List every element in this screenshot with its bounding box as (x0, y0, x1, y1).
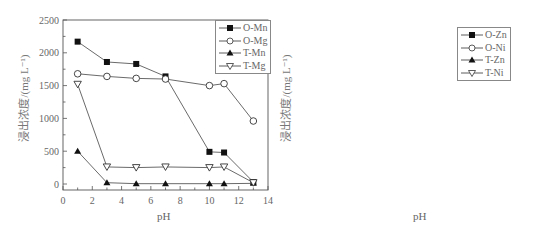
legend-right: O-Zn O-Ni T-Zn T-Ni (457, 27, 511, 81)
legend-item-t-mn: T-Mn (219, 47, 267, 60)
x-tick-label: 12 (234, 195, 244, 206)
marker-triangle-down (74, 81, 81, 88)
marker-square (104, 59, 110, 65)
y-tick-label: 1000 (39, 113, 59, 124)
y-tick-label: 500 (44, 146, 59, 157)
x-tick-label: 0 (61, 195, 66, 206)
marker-circle (206, 82, 213, 89)
y-tick-label: 2000 (39, 47, 59, 58)
x-tick-label: 4 (119, 195, 124, 206)
y-axis-label-left: 浸出浓度/(mg L⁻¹) (15, 43, 31, 153)
marker-triangle-up (162, 180, 169, 186)
x-axis-label-left: pH (157, 210, 170, 222)
marker-square (133, 61, 139, 67)
y-tick-label: 1500 (39, 80, 59, 91)
marker-circle (250, 118, 257, 125)
marker-triangle-up (221, 180, 228, 186)
marker-circle (104, 73, 111, 80)
marker-circle (162, 76, 169, 83)
marker-circle (74, 70, 81, 77)
marker-triangle-up (74, 148, 81, 154)
y-tick-label: 0 (54, 179, 59, 190)
legend-item-t-mg: T-Mg (219, 60, 267, 73)
legend-item-o-zn: O-Zn (461, 29, 507, 42)
legend-item-t-zn: T-Zn (461, 54, 507, 67)
y-axis-label-right: 浸出浓度/(mg L⁻¹) (277, 43, 293, 153)
series-o-mg (74, 70, 256, 124)
chart-left-mn-mg: 0246810121405001000150020002500 浸出浓度/(mg… (0, 0, 274, 236)
marker-triangle-up (133, 180, 140, 186)
legend-item-o-mg: O-Mg (219, 35, 267, 48)
x-tick-label: 8 (178, 195, 183, 206)
marker-square (206, 149, 212, 155)
x-tick-label: 6 (148, 195, 153, 206)
chart-right-zn-ni: 0246810121405101540 浸出浓度/(mg L⁻¹) pH O-Z… (274, 0, 548, 236)
series-t-mg (74, 81, 257, 186)
marker-circle (133, 75, 140, 82)
y-tick-label: 2500 (39, 15, 59, 26)
legend-item-o-mn: O-Mn (219, 22, 267, 35)
x-axis-label-right: pH (413, 210, 426, 222)
legend-item-t-ni: T-Ni (461, 67, 507, 80)
x-tick-label: 10 (204, 195, 214, 206)
legend-left: O-Mn O-Mg T-Mn T-Mg (215, 20, 271, 74)
x-tick-label: 2 (90, 195, 95, 206)
legend-item-o-ni: O-Ni (461, 42, 507, 55)
marker-triangle-up (206, 180, 213, 186)
marker-circle (221, 80, 228, 87)
x-tick-label: 14 (263, 195, 273, 206)
marker-square (221, 150, 227, 156)
marker-square (75, 39, 81, 45)
